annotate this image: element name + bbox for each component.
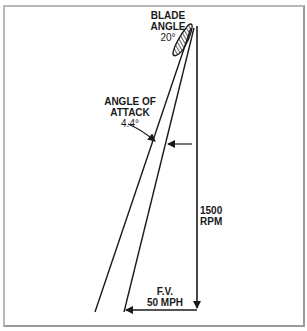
blade-angle-label: BLADE ANGLE 20° [140, 10, 196, 43]
blade-angle-title-1: BLADE [140, 10, 196, 21]
blade-chord-line [124, 28, 194, 312]
propeller-vector-diagram [0, 0, 307, 331]
rpm-unit: RPM [200, 216, 222, 227]
forward-velocity-label: F.V. 50 MPH [135, 286, 195, 308]
blade-angle-title-2: ANGLE [140, 21, 196, 32]
rpm-value: 1500 [200, 205, 222, 216]
fv-value: 50 MPH [135, 297, 195, 308]
aoa-title-1: ANGLE OF [93, 96, 167, 107]
relative-wind-line [95, 28, 191, 312]
angle-of-attack-label: ANGLE OF ATTACK 4.4° [93, 96, 167, 129]
aoa-value: 4.4° [93, 118, 167, 129]
rpm-label: 1500 RPM [200, 205, 222, 227]
fv-title: F.V. [135, 286, 195, 297]
aoa-title-2: ATTACK [93, 107, 167, 118]
blade-angle-value: 20° [140, 32, 196, 43]
